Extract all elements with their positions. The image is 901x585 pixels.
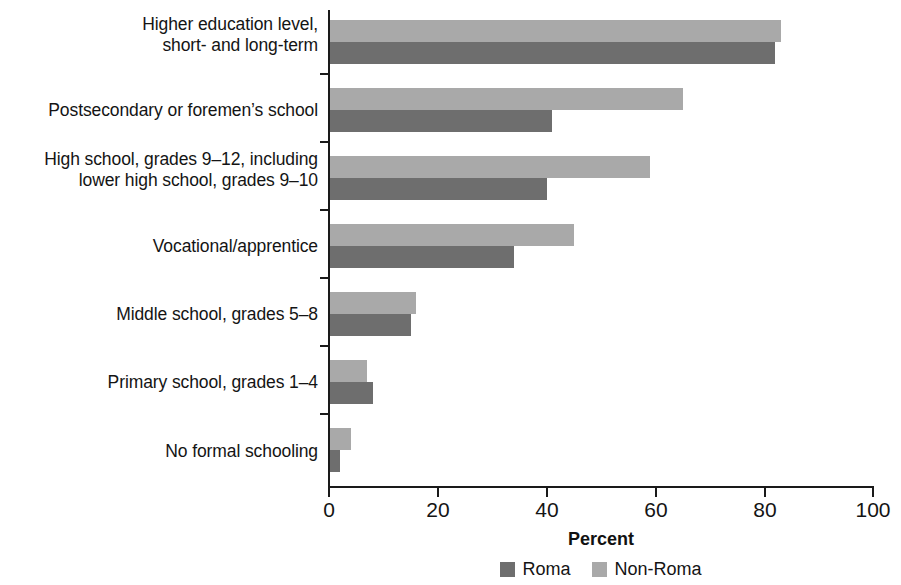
category-axis-labels: Higher education level, short- and long-… (0, 0, 318, 487)
legend-label-roma: Roma (522, 559, 570, 580)
legend-item-roma[interactable]: Roma (500, 559, 570, 580)
category-label-middle-school: Middle school, grades 5–8 (0, 304, 318, 325)
x-axis-line (328, 486, 874, 488)
x-axis-tick-label-0: 0 (323, 498, 335, 522)
y-axis-tick (320, 73, 329, 75)
legend-item-nonroma[interactable]: Non-Roma (592, 559, 701, 580)
bar-nonroma-higher-education (329, 20, 781, 42)
y-axis-tick (320, 345, 329, 347)
y-axis-tick (320, 209, 329, 211)
y-axis-tick (320, 141, 329, 143)
x-axis-tick-label-20: 20 (426, 498, 449, 522)
bar-nonroma-postsecondary (329, 88, 683, 110)
category-label-no-formal-schooling: No formal schooling (0, 441, 318, 462)
x-axis-tick (655, 488, 657, 497)
x-axis-tick-label-60: 60 (644, 498, 667, 522)
bar-nonroma-primary-school (329, 360, 367, 382)
y-axis-line (328, 10, 330, 488)
x-axis-tick (328, 488, 330, 497)
bar-roma-high-school (329, 178, 547, 200)
category-label-primary-school: Primary school, grades 1–4 (0, 372, 318, 393)
x-axis-tick (764, 488, 766, 497)
x-axis-tick (437, 488, 439, 497)
bar-roma-higher-education (329, 42, 775, 64)
y-axis-tick (320, 277, 329, 279)
y-axis-tick (320, 413, 329, 415)
legend-label-nonroma: Non-Roma (614, 559, 701, 580)
bar-nonroma-no-formal-schooling (329, 428, 351, 450)
category-label-high-school: High school, grades 9–12, including lowe… (0, 149, 318, 191)
category-label-vocational: Vocational/apprentice (0, 236, 318, 257)
bar-nonroma-high-school (329, 156, 650, 178)
bar-roma-primary-school (329, 382, 373, 404)
x-axis-tick-label-40: 40 (535, 498, 558, 522)
bar-roma-no-formal-schooling (329, 450, 340, 472)
bar-chart: Higher education level, short- and long-… (0, 0, 901, 585)
legend-swatch-nonroma-icon (592, 562, 607, 577)
bar-nonroma-middle-school (329, 292, 416, 314)
plot-area (329, 10, 873, 487)
bar-roma-postsecondary (329, 110, 552, 132)
x-axis-tick-label-80: 80 (753, 498, 776, 522)
category-label-postsecondary: Postsecondary or foremen’s school (0, 100, 318, 121)
x-axis-tick (872, 488, 874, 497)
x-axis-title: Percent (329, 529, 873, 550)
legend-swatch-roma-icon (500, 562, 515, 577)
bar-roma-middle-school (329, 314, 411, 336)
bar-nonroma-vocational (329, 224, 574, 246)
x-axis-tick (546, 488, 548, 497)
bar-roma-vocational (329, 246, 514, 268)
chart-legend: Roma Non-Roma (329, 559, 873, 580)
x-axis-tick-label-100: 100 (855, 498, 890, 522)
category-label-higher-education: Higher education level, short- and long-… (0, 14, 318, 56)
